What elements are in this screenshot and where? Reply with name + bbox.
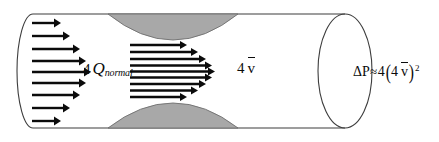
flow-rate-label: 4Qnormal: [83, 60, 132, 78]
arrow-inlet-9: [32, 117, 61, 126]
arrow-throat-5: [130, 68, 215, 76]
flow-rate-multiplier: 4: [83, 61, 91, 77]
arrow-throat-2: [130, 48, 198, 56]
flow-rate-symbol: Q: [91, 59, 105, 78]
arrow-throat-7: [130, 80, 206, 88]
plaque-top: [108, 14, 238, 40]
inner-multiplier: 4: [391, 64, 398, 79]
arrow-inlet-6: [32, 79, 86, 88]
flow-rate-subscript: normal: [105, 67, 133, 78]
arrow-inlet-3: [32, 45, 80, 54]
plaque-bottom: [108, 103, 238, 128]
velocity-symbol: v: [248, 60, 256, 76]
velocity-symbol-bar: v: [245, 61, 256, 76]
left-back-edge: [17, 14, 33, 128]
approximately-equal-icon: ≈: [370, 64, 378, 79]
inner-velocity-symbol: v: [401, 64, 408, 79]
throat-velocity-profile: [130, 41, 215, 101]
arrow-inlet-4: [32, 57, 86, 66]
overbar-accent: [248, 57, 256, 58]
arrow-inlet-7: [32, 91, 80, 100]
arrow-throat-4: [130, 62, 212, 70]
pressure-drop-lhs: ΔP: [353, 64, 370, 79]
arrow-inlet-1: [32, 19, 61, 28]
flow-diagram-figure: 4Qnormal 4v ΔP≈4(4v)2: [0, 0, 439, 142]
arrow-throat-6: [130, 74, 212, 82]
overbar-accent: [401, 62, 408, 63]
velocity-multiplier: 4: [237, 60, 245, 76]
arrow-throat-1: [130, 41, 187, 49]
arrow-inlet-2: [32, 32, 70, 41]
arrow-inlet-8: [32, 104, 70, 113]
arrow-throat-3: [130, 55, 206, 63]
velocity-label: 4v: [237, 61, 255, 76]
exponent: 2: [414, 63, 419, 73]
open-paren: (: [385, 62, 390, 82]
close-paren: ): [409, 62, 414, 82]
arrow-throat-9: [130, 93, 187, 101]
inner-velocity-symbol-bar: v: [398, 65, 408, 79]
arrow-throat-8: [130, 87, 198, 95]
pressure-drop-equation: ΔP≈4(4v)2: [353, 62, 419, 82]
pressure-coefficient: 4: [378, 64, 385, 79]
